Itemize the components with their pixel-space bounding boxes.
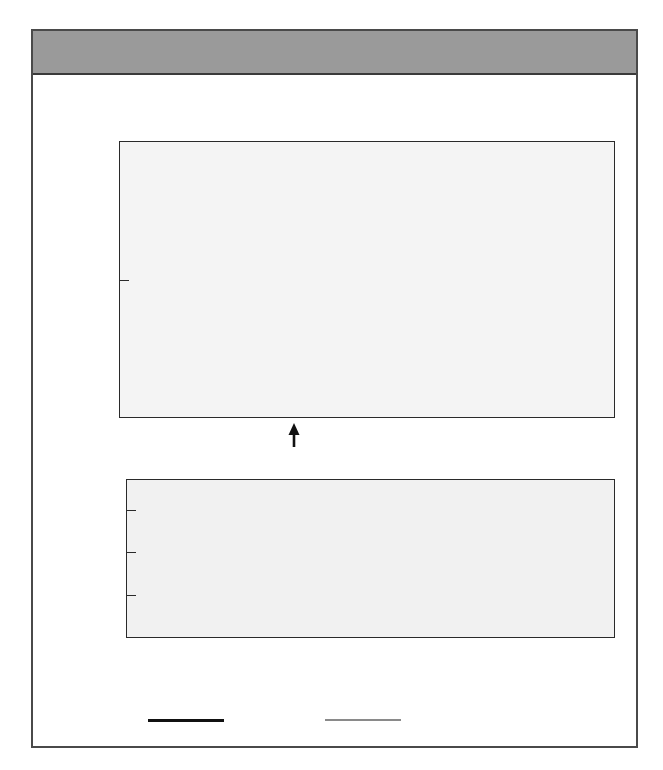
- up-arrow-icon: [229, 423, 359, 447]
- legend-swatch-placebo-icon: [325, 719, 401, 721]
- grass-pollen-plot: [126, 479, 615, 638]
- bottom-ytickmark-50: [127, 595, 136, 596]
- top-ytickmark-1: [120, 280, 129, 281]
- chart-legend: [126, 703, 566, 737]
- figure-frame: [31, 29, 638, 748]
- bottom-ytickmark-150: [127, 510, 136, 511]
- legend-item-placebo: [325, 719, 414, 721]
- legend-item-steroid: [148, 719, 237, 722]
- bottom-ytickmark-100: [127, 552, 136, 553]
- nasal-blockage-plot: [119, 141, 615, 418]
- legend-swatch-steroid-icon: [148, 719, 224, 722]
- chart-title-bar: [33, 31, 636, 75]
- steroid-annotation: [229, 423, 359, 446]
- pollen-series-canvas: [127, 480, 613, 636]
- top-chart-series-canvas: [120, 142, 613, 416]
